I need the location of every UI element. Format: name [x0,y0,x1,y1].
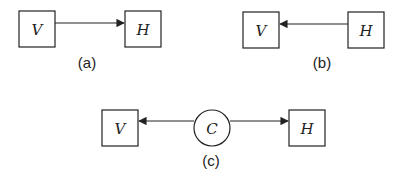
caption-a: (a) [78,54,96,71]
diagram-a: V H (a) [19,11,161,71]
causal-diagrams: V H (a) V H (b) V C H (c) [0,0,400,182]
diagram-b: V H (b) [243,12,384,71]
caption-c: (c) [202,152,220,169]
node-h-label: H [358,22,373,40]
node-h-label: H [135,21,150,39]
node-c-label: C [206,120,218,138]
caption-b: (b) [313,54,331,71]
diagram-c: V C H (c) [102,110,325,169]
node-h-label: H [299,120,314,138]
